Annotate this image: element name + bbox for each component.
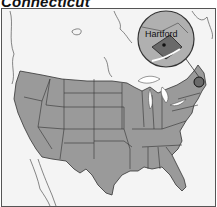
capital-dot	[162, 43, 166, 47]
connecticut-locator	[194, 77, 204, 87]
map-frame: Hartford	[1, 8, 216, 207]
us-map	[2, 9, 215, 206]
inset-magnifier	[138, 11, 194, 67]
capital-label: Hartford	[145, 29, 178, 39]
